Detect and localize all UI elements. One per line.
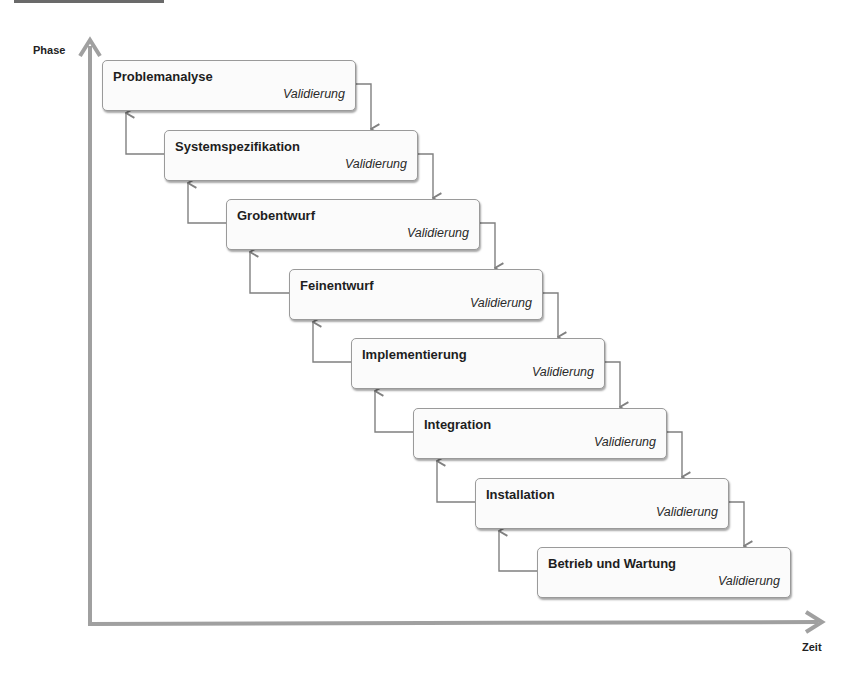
phase-title: Integration xyxy=(424,417,491,432)
phase-box-integration: Integration Validierung xyxy=(413,408,667,459)
phase-box-installation: Installation Validierung xyxy=(475,478,729,529)
phase-validation: Validierung xyxy=(718,574,780,588)
phase-validation: Validierung xyxy=(407,226,469,240)
phase-title: Installation xyxy=(486,487,555,502)
phase-validation: Validierung xyxy=(656,505,718,519)
phase-title: Feinentwurf xyxy=(300,278,374,293)
phase-title: Betrieb und Wartung xyxy=(548,556,676,571)
phase-title: Systemspezifikation xyxy=(175,139,300,154)
phase-validation: Validierung xyxy=(594,435,656,449)
phase-title: Implementierung xyxy=(362,347,467,362)
phase-box-implementierung: Implementierung Validierung xyxy=(351,338,605,389)
axes xyxy=(80,40,822,632)
phase-validation: Validierung xyxy=(283,87,345,101)
phase-validation: Validierung xyxy=(345,157,407,171)
x-axis-label: Zeit xyxy=(802,641,822,653)
y-axis-label: Phase xyxy=(33,44,65,56)
phase-box-feinentwurf: Feinentwurf Validierung xyxy=(289,269,543,320)
phase-box-systemspezifikation: Systemspezifikation Validierung xyxy=(164,130,418,181)
phase-validation: Validierung xyxy=(470,296,532,310)
phase-box-problemanalyse: Problemanalyse Validierung xyxy=(102,60,356,111)
phase-title: Problemanalyse xyxy=(113,69,213,84)
phase-box-grobentwurf: Grobentwurf Validierung xyxy=(226,199,480,250)
phase-title: Grobentwurf xyxy=(237,208,315,223)
phase-box-betrieb-und-wartung: Betrieb und Wartung Validierung xyxy=(537,547,791,598)
phase-validation: Validierung xyxy=(532,365,594,379)
